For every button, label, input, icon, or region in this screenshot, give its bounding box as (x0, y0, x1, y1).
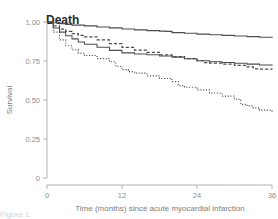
x-tick-label-2: 12 (118, 191, 126, 200)
x-tick-label-4: 36 (268, 191, 276, 200)
survival-plot: Death 1.00 0.75 0.50 0.25 0 0 12 24 (0, 0, 278, 219)
x-tick-group: 0 12 24 36 (45, 185, 276, 200)
x-tick-label-3: 24 (193, 191, 201, 200)
y-tick-label-4: 0.25 (25, 135, 40, 144)
y-tick-label-1: 1.00 (25, 18, 40, 27)
y-tick-group: 1.00 0.75 0.50 0.25 0 (25, 18, 47, 183)
curve-solid-mid (47, 22, 272, 66)
curve-dashed (47, 22, 272, 70)
figure-container: Death 1.00 0.75 0.50 0.25 0 0 12 24 (0, 0, 278, 219)
y-tick-label-3: 0.50 (25, 96, 40, 105)
y-axis-title: Survival (5, 86, 14, 115)
y-tick-label-2: 0.75 (25, 57, 40, 66)
x-tick-label-1: 0 (45, 191, 49, 200)
figure-caption-partial: Figure 1. (0, 210, 278, 219)
y-tick-label-5: 0 (36, 174, 40, 183)
curve-layer (47, 22, 272, 112)
